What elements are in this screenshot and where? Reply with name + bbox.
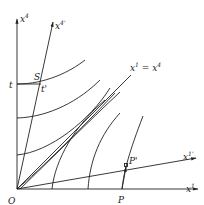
P-label: P xyxy=(117,195,125,205)
Pprime-label: P' xyxy=(128,156,138,166)
x1-axis-label: x1 xyxy=(186,182,195,194)
hyperbola-spacelike-2 xyxy=(88,113,120,189)
origin-label: O xyxy=(8,196,16,205)
hyperbola-timelike-3 xyxy=(17,88,110,155)
x4prime-axis xyxy=(17,22,53,189)
tprime-label: t' xyxy=(41,84,47,94)
x4-axis-label: x4 xyxy=(20,12,29,24)
t-label: t xyxy=(9,80,13,90)
hyperbola-timelike-2 xyxy=(17,80,100,118)
S-label: S xyxy=(34,72,40,82)
x1prime-axis-label: x1' xyxy=(183,150,194,162)
x4prime-axis-label: x4' xyxy=(55,19,66,31)
pprime-marker xyxy=(125,164,128,167)
spacetime-diagram: x4 x4' x1 x1' x1 = x4 O t S t' P P' xyxy=(0,0,204,205)
hyperbola-timelike-1 xyxy=(17,60,85,84)
hyperbola-spacelike-3 xyxy=(122,116,143,189)
light-line-label: x1 = x4 xyxy=(130,61,161,73)
